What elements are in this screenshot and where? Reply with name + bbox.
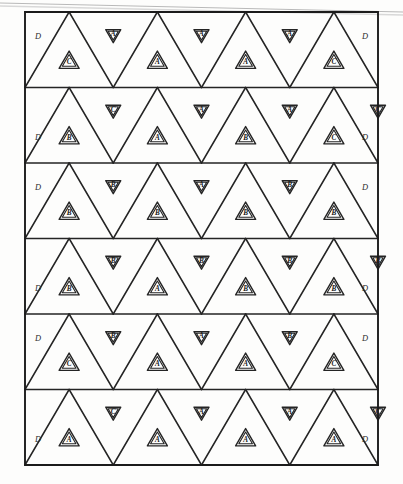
triangle-edge-left	[290, 12, 334, 88]
triangle-edge-left	[290, 88, 334, 164]
cell-r6-down2-letter: A	[198, 408, 204, 416]
triangle-edge-right	[334, 314, 378, 390]
cell-r2-down1-letter: C	[111, 106, 116, 114]
triangle-edge-right	[246, 239, 290, 315]
cell-r3-up2-letter: B	[154, 209, 160, 217]
triangle-edge-right	[157, 390, 201, 466]
cell-r4-down1-letter: B	[110, 257, 116, 265]
cell-r1-up4-letter: C	[331, 58, 336, 66]
cell-r4-down3-letter: B	[286, 257, 292, 265]
triangle-edge-left	[202, 163, 246, 239]
triangle-edge-right	[157, 163, 201, 239]
cell-r5-up1-letter: C	[67, 360, 72, 368]
cell-r1-down2-letter: A	[198, 30, 204, 38]
edge-label-left-row4: D	[34, 284, 41, 293]
cell-r4-up4-letter: B	[330, 285, 336, 293]
cell-r4-down2-letter: B	[198, 257, 204, 265]
cell-r3-down3-letter: B	[286, 181, 292, 189]
cell-r3-up4-letter: B	[330, 209, 336, 217]
triangle-edge-left	[25, 239, 69, 315]
cell-r1-up3-letter: A	[242, 58, 248, 66]
triangle-edge-right	[334, 88, 378, 164]
cell-r5-down1-letter: B	[110, 332, 116, 340]
triangle-grid-layer	[25, 12, 378, 465]
cell-r6-down3-letter: A	[286, 408, 292, 416]
triangle-edge-right	[246, 314, 290, 390]
cell-r5-down2-letter: A	[198, 332, 204, 340]
letter-label-layer: CAACAAADDBABCCAACDDBBBBBABDDBABBBBBBDDCA…	[34, 30, 381, 443]
edge-label-left-row1: D	[34, 32, 41, 41]
cell-r1-down1-letter: A	[110, 30, 116, 38]
triangle-edge-right	[246, 163, 290, 239]
cell-r4-up2-letter: A	[154, 285, 160, 293]
triangle-edge-right	[69, 239, 113, 315]
cell-r6-up4-letter: A	[330, 436, 336, 444]
triangular-tessellation-figure: CAACAAADDBABCCAACDDBBBBBABDDBABBBBBBDDCA…	[0, 0, 403, 484]
edge-label-right-row1: D	[361, 32, 368, 41]
cell-r2-up2-letter: A	[154, 134, 160, 142]
triangle-edge-left	[202, 239, 246, 315]
edge-label-left-row6: D	[34, 435, 41, 444]
triangle-edge-left	[290, 163, 334, 239]
cell-r2-up4-letter: C	[331, 134, 336, 142]
edge-label-left-row5: D	[34, 334, 41, 343]
triangle-edge-left	[113, 163, 157, 239]
cell-r2-down2-letter: A	[198, 106, 204, 114]
cell-r3-down2-letter: A	[198, 181, 204, 189]
cell-r3-up3-letter: B	[242, 209, 248, 217]
triangle-edge-left	[25, 390, 69, 466]
triangle-edge-right	[157, 239, 201, 315]
cell-r6-up1-letter: A	[66, 436, 72, 444]
triangle-edge-right	[69, 390, 113, 466]
triangle-edge-left	[113, 12, 157, 88]
cell-r2-up1-letter: B	[66, 134, 72, 142]
cell-r4-up1-letter: B	[66, 285, 72, 293]
cell-r1-up1-letter: C	[67, 58, 72, 66]
triangle-edge-left	[113, 390, 157, 466]
triangle-edge-right	[246, 12, 290, 88]
triangle-edge-right	[157, 12, 201, 88]
cell-r2-down3-letter: A	[286, 106, 292, 114]
triangle-edge-right	[334, 390, 378, 466]
cell-r6-down1-letter: C	[111, 408, 116, 416]
edge-label-right-row6: D	[361, 435, 368, 444]
edge-label-left-row3: D	[34, 183, 41, 192]
triangle-edge-right	[69, 314, 113, 390]
triangle-edge-left	[25, 163, 69, 239]
triangle-edge-left	[290, 239, 334, 315]
cell-r5-down3-letter: B	[286, 332, 292, 340]
triangle-edge-right	[334, 163, 378, 239]
edge-label-right-row3: D	[361, 183, 368, 192]
triangle-edge-left	[202, 12, 246, 88]
triangle-edge-right	[334, 239, 378, 315]
cell-r2-up3-letter: B	[242, 134, 248, 142]
triangle-edge-left	[290, 390, 334, 466]
cell-r6-up2-letter: A	[154, 436, 160, 444]
cell-r1-down3-letter: A	[286, 30, 292, 38]
triangle-edge-right	[246, 390, 290, 466]
triangle-edge-left	[25, 314, 69, 390]
cell-r4-up3-letter: B	[242, 285, 248, 293]
triangle-edge-right	[246, 88, 290, 164]
edge-label-right-row5: D	[361, 334, 368, 343]
triangle-edge-right	[69, 88, 113, 164]
cell-r3-down1-letter: B	[110, 181, 116, 189]
triangle-edge-left	[25, 12, 69, 88]
triangle-edge-left	[113, 239, 157, 315]
triangle-edge-left	[202, 390, 246, 466]
triangle-edge-right	[334, 12, 378, 88]
triangle-edge-left	[113, 314, 157, 390]
cell-r5-up3-letter: A	[242, 360, 248, 368]
cell-r5-up4-letter: C	[331, 360, 336, 368]
scan-artifact-layer	[0, 3, 403, 15]
edge-label-right-row2: D	[361, 133, 368, 142]
triangle-edge-right	[157, 88, 201, 164]
edge-label-right-row4: D	[361, 284, 368, 293]
cell-r1-up2-letter: A	[154, 58, 160, 66]
triangle-edge-left	[202, 88, 246, 164]
cell-r5-up2-letter: A	[154, 360, 160, 368]
triangle-edge-left	[113, 88, 157, 164]
triangle-edge-left	[290, 314, 334, 390]
triangle-edge-right	[157, 314, 201, 390]
triangle-edge-right	[69, 163, 113, 239]
